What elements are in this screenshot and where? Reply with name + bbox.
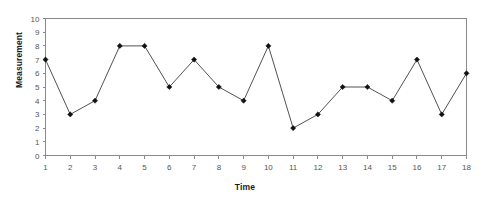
data-point <box>266 43 271 48</box>
data-point <box>365 84 370 89</box>
x-tick-label: 3 <box>93 163 98 172</box>
data-point <box>390 98 395 103</box>
x-tick-label: 17 <box>437 163 446 172</box>
data-point <box>68 112 73 117</box>
y-tick-label: 6 <box>35 69 40 78</box>
plot-area: 012345678910 123456789101112131415161718 <box>0 0 490 203</box>
y-tick-label: 4 <box>35 97 40 106</box>
data-point <box>414 57 419 62</box>
y-tick-label: 1 <box>35 138 40 147</box>
y-tick-label: 7 <box>35 56 40 65</box>
data-point <box>464 71 469 76</box>
x-tick-label: 1 <box>43 163 48 172</box>
data-point <box>439 112 444 117</box>
x-tick-label: 9 <box>241 163 246 172</box>
x-tick-label: 15 <box>388 163 397 172</box>
y-axis-tick-group: 012345678910 <box>31 15 46 161</box>
data-point <box>142 43 147 48</box>
data-point <box>92 98 97 103</box>
y-tick-label: 9 <box>35 28 40 37</box>
x-tick-label: 6 <box>167 163 172 172</box>
data-point <box>43 57 48 62</box>
plot-frame <box>46 19 467 156</box>
x-tick-label: 8 <box>217 163 222 172</box>
y-tick-label: 3 <box>35 110 40 119</box>
x-tick-label: 2 <box>68 163 73 172</box>
data-point <box>117 43 122 48</box>
series-line <box>46 46 467 128</box>
x-tick-label: 14 <box>363 163 372 172</box>
y-tick-label: 2 <box>35 124 40 133</box>
x-tick-label: 10 <box>264 163 273 172</box>
y-tick-label: 10 <box>31 15 40 24</box>
x-tick-label: 18 <box>462 163 471 172</box>
series-marker-group <box>43 43 469 130</box>
y-tick-label: 8 <box>35 42 40 51</box>
x-tick-label: 16 <box>413 163 422 172</box>
y-tick-label: 0 <box>35 152 40 161</box>
x-tick-label: 12 <box>313 163 322 172</box>
x-axis-tick-group: 123456789101112131415161718 <box>43 156 471 172</box>
x-tick-label: 11 <box>289 163 298 172</box>
x-tick-label: 4 <box>118 163 123 172</box>
x-tick-label: 7 <box>192 163 197 172</box>
x-tick-label: 13 <box>338 163 347 172</box>
x-tick-label: 5 <box>142 163 147 172</box>
data-point <box>241 98 246 103</box>
y-tick-label: 5 <box>35 83 40 92</box>
x-axis-title: Time <box>0 182 490 192</box>
line-chart: Measurement 012345678910 123456789101112… <box>0 0 490 203</box>
data-point <box>291 126 296 131</box>
